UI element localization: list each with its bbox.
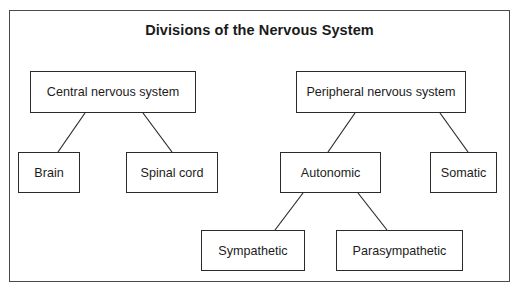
node-central-nervous-system: Central nervous system bbox=[30, 71, 196, 113]
node-label: Autonomic bbox=[301, 166, 361, 180]
page-title: Divisions of the Nervous System bbox=[9, 22, 510, 38]
node-label: Spinal cord bbox=[140, 166, 203, 180]
node-spinal-cord: Spinal cord bbox=[126, 152, 218, 193]
node-somatic: Somatic bbox=[430, 152, 497, 193]
node-label: Peripheral nervous system bbox=[306, 85, 455, 99]
node-sympathetic: Sympathetic bbox=[201, 230, 305, 271]
node-label: Sympathetic bbox=[218, 244, 287, 258]
node-label: Somatic bbox=[441, 166, 487, 180]
nervous-system-diagram: Divisions of the Nervous System Central … bbox=[0, 0, 521, 291]
node-parasympathetic: Parasympathetic bbox=[336, 230, 463, 271]
node-label: Central nervous system bbox=[47, 85, 179, 99]
node-label: Brain bbox=[34, 166, 63, 180]
node-brain: Brain bbox=[18, 152, 80, 193]
node-peripheral-nervous-system: Peripheral nervous system bbox=[296, 71, 466, 113]
node-label: Parasympathetic bbox=[353, 244, 447, 258]
node-autonomic: Autonomic bbox=[280, 152, 381, 193]
